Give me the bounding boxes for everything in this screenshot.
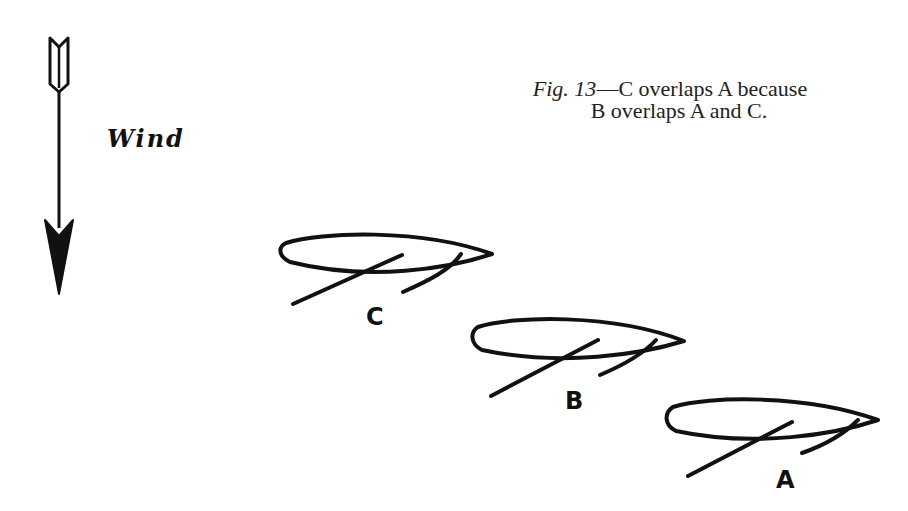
boat-label-b: B [565, 387, 583, 415]
figure-canvas: Wind Fig. 13—C overlaps A because B over… [0, 0, 908, 511]
boat-b-icon [472, 319, 684, 396]
boat-label-a: A [776, 466, 795, 494]
boat-label-c: C [366, 303, 384, 331]
boats-diagram [0, 0, 908, 511]
boat-c-icon [280, 234, 492, 304]
boat-a-icon [667, 399, 878, 476]
